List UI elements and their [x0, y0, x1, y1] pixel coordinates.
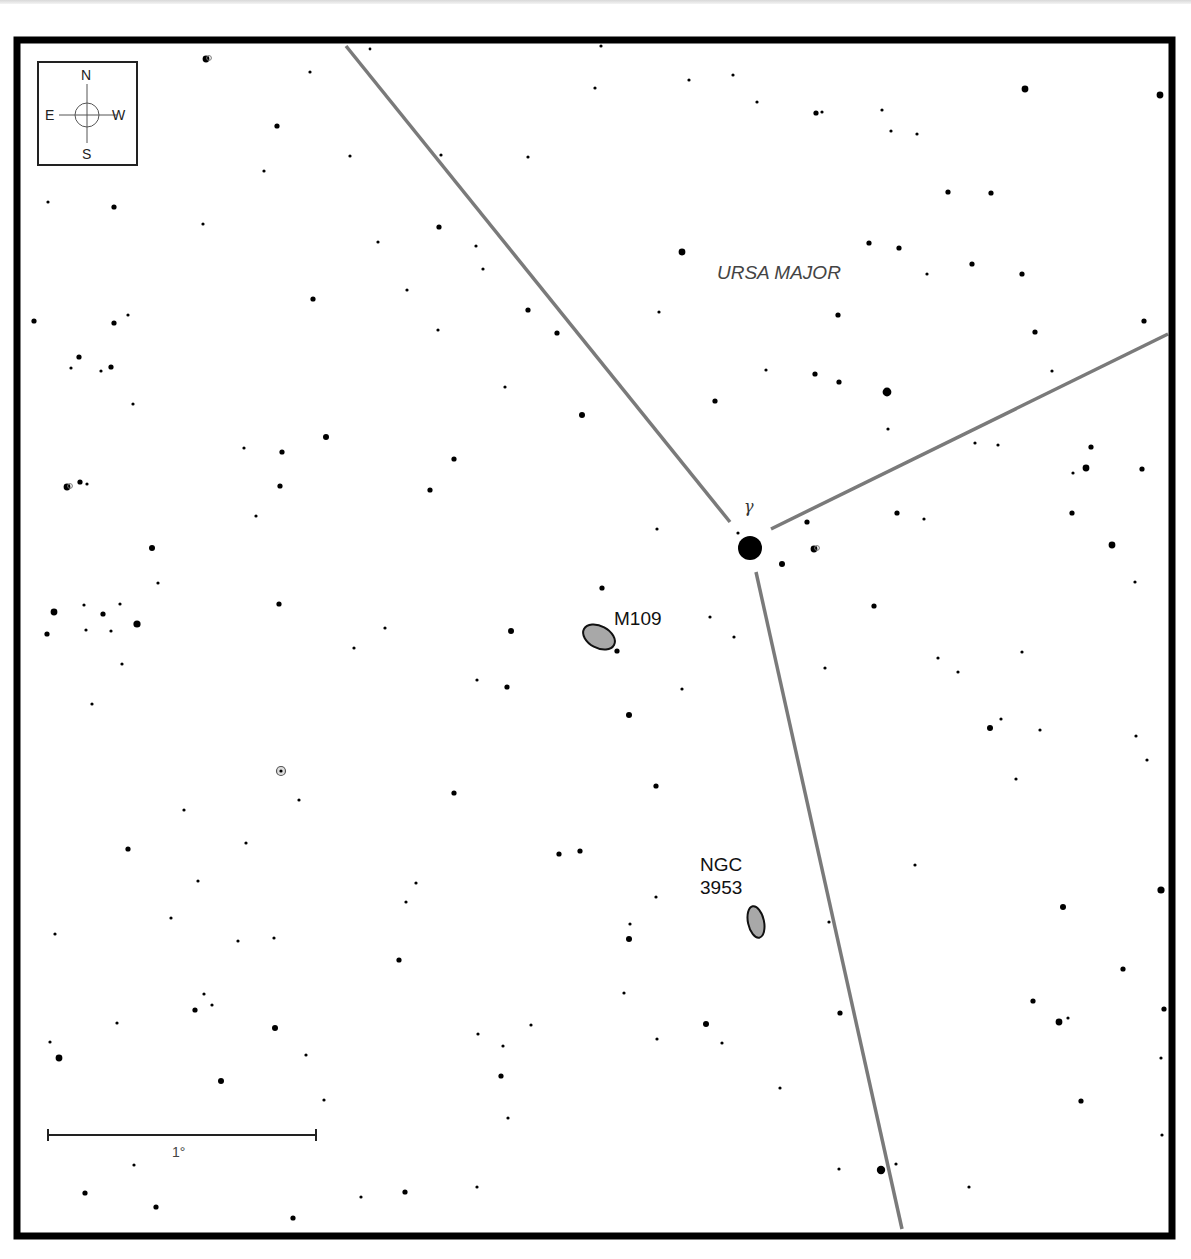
star: [451, 456, 456, 461]
star: [922, 517, 925, 520]
star: [880, 108, 883, 111]
star: [322, 1098, 325, 1101]
compass-west: W: [112, 108, 125, 122]
star: [51, 609, 58, 616]
star: [1032, 329, 1037, 334]
star: [1120, 966, 1125, 971]
star: [405, 288, 408, 291]
star: [973, 441, 976, 444]
star: [84, 628, 87, 631]
star: [554, 330, 559, 335]
star: [82, 1190, 87, 1195]
star: [402, 1189, 407, 1194]
star: [182, 808, 185, 811]
star: [1071, 471, 1074, 474]
star: [577, 848, 582, 853]
compass-rose: N S E W: [37, 61, 138, 166]
star: [439, 153, 442, 156]
star: [1161, 1006, 1166, 1011]
star: [1069, 510, 1074, 515]
star: [69, 366, 72, 369]
star: [254, 514, 257, 517]
star: [115, 1021, 118, 1024]
star: [272, 936, 275, 939]
star: [44, 631, 49, 636]
star: [352, 646, 355, 649]
star: [1014, 777, 1017, 780]
star: [475, 1185, 478, 1188]
star: [779, 561, 785, 567]
star: [1020, 650, 1023, 653]
star: [894, 1162, 897, 1165]
scale-bar: [48, 1129, 316, 1141]
star: [272, 1025, 278, 1031]
star: [436, 224, 441, 229]
star: [755, 100, 758, 103]
star: [999, 717, 1002, 720]
compass-east: E: [45, 108, 54, 122]
star: [837, 1167, 840, 1170]
star: [988, 190, 993, 195]
star: [835, 312, 840, 317]
star: [210, 1003, 213, 1006]
star: [529, 1023, 532, 1026]
gamma-star-label: γ: [744, 499, 754, 515]
star: [813, 110, 818, 115]
star: [956, 670, 959, 673]
star: [1159, 1056, 1162, 1059]
star: [525, 307, 530, 312]
star: [202, 992, 205, 995]
star: [1088, 444, 1093, 449]
star: [109, 629, 112, 632]
star: [1019, 271, 1024, 276]
star: [877, 1166, 885, 1174]
star: [153, 1204, 158, 1209]
star: [85, 482, 88, 485]
star: [1030, 998, 1035, 1003]
star: [404, 900, 407, 903]
ngc3953-label-line2: 3953: [700, 878, 742, 897]
star: [498, 1073, 503, 1078]
star: [1056, 1019, 1063, 1026]
star: [837, 1010, 842, 1015]
star: [149, 545, 155, 551]
gamma-star: [738, 536, 762, 560]
star: [599, 585, 604, 590]
star: [871, 603, 876, 608]
boundary-line: [771, 334, 1168, 529]
star: [626, 712, 632, 718]
star: [812, 371, 817, 376]
star: [414, 881, 417, 884]
star: [626, 936, 632, 942]
star: [827, 920, 830, 923]
star: [593, 86, 596, 89]
star: [46, 200, 49, 203]
double-star-icon: [811, 546, 818, 553]
star: [556, 851, 561, 856]
star: [1157, 92, 1164, 99]
star: [120, 662, 123, 665]
star: [156, 581, 159, 584]
star: [236, 939, 239, 942]
star: [996, 443, 999, 446]
star: [244, 841, 247, 844]
constellation-boundary-lines: [346, 46, 1168, 1229]
star: [654, 895, 657, 898]
star: [1145, 758, 1148, 761]
star: [297, 798, 300, 801]
star: [31, 318, 36, 323]
star: [1160, 1133, 1163, 1136]
star: [657, 310, 660, 313]
star: [277, 483, 282, 488]
star: [1066, 1016, 1069, 1019]
star: [889, 129, 892, 132]
star: [1022, 86, 1029, 93]
double-star-icon: [64, 484, 71, 491]
star: [732, 635, 735, 638]
star: [622, 991, 625, 994]
star: [396, 957, 401, 962]
star: [279, 449, 284, 454]
star: [310, 296, 315, 301]
star: [323, 434, 329, 440]
star: [132, 1163, 135, 1166]
